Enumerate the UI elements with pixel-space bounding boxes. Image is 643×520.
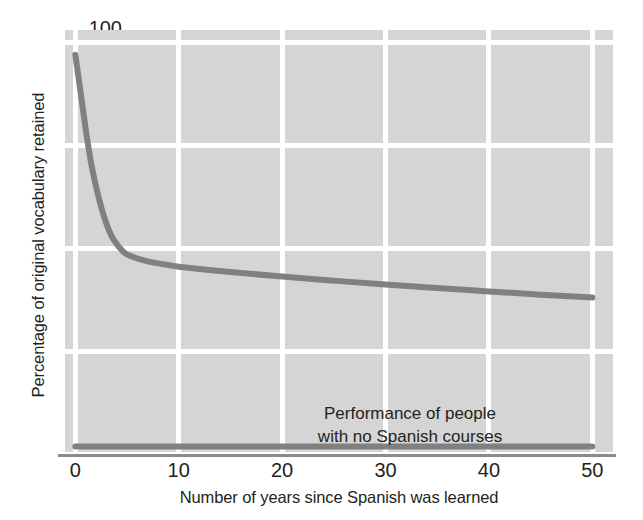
x-tick-label: 0 xyxy=(45,458,105,482)
data-series-line xyxy=(75,55,592,298)
x-tick-label: 30 xyxy=(356,458,416,482)
plot-area: Performance of people with no Spanish co… xyxy=(65,30,613,454)
x-tick-label: 40 xyxy=(459,458,519,482)
series-lines xyxy=(65,30,613,454)
x-tick-label: 10 xyxy=(149,458,209,482)
x-tick-label: 20 xyxy=(252,458,312,482)
annotation-line-1: Performance of people xyxy=(265,402,555,425)
annotation-no-spanish-courses: Performance of people with no Spanish co… xyxy=(265,402,555,448)
forgetting-curve-chart: Percentage of original vocabulary retain… xyxy=(0,0,643,520)
x-axis-rule xyxy=(58,454,616,457)
x-axis-tick-labels: 01020304050 xyxy=(65,458,613,484)
annotation-line-2: with no Spanish courses xyxy=(265,425,555,448)
x-axis-title: Number of years since Spanish was learne… xyxy=(65,486,613,508)
x-tick-label: 50 xyxy=(562,458,622,482)
